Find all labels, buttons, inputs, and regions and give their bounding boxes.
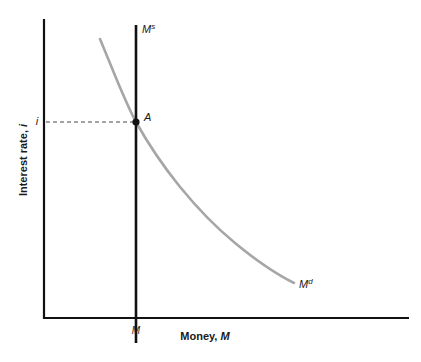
y-tick-i: i <box>36 115 39 127</box>
x-axis-title: Money, M <box>180 330 230 342</box>
point-a-label: A <box>143 111 151 123</box>
x-tick-m: M <box>132 325 141 336</box>
equilibrium-point-a <box>132 118 139 125</box>
ms-label: Ms <box>142 22 155 35</box>
y-axis-title: Interest rate, i <box>17 123 29 196</box>
md-label: Md <box>299 277 313 290</box>
money-market-chart: Ms Md A i M Money, M Interest rate, i <box>0 0 421 362</box>
money-demand-curve <box>100 39 294 283</box>
